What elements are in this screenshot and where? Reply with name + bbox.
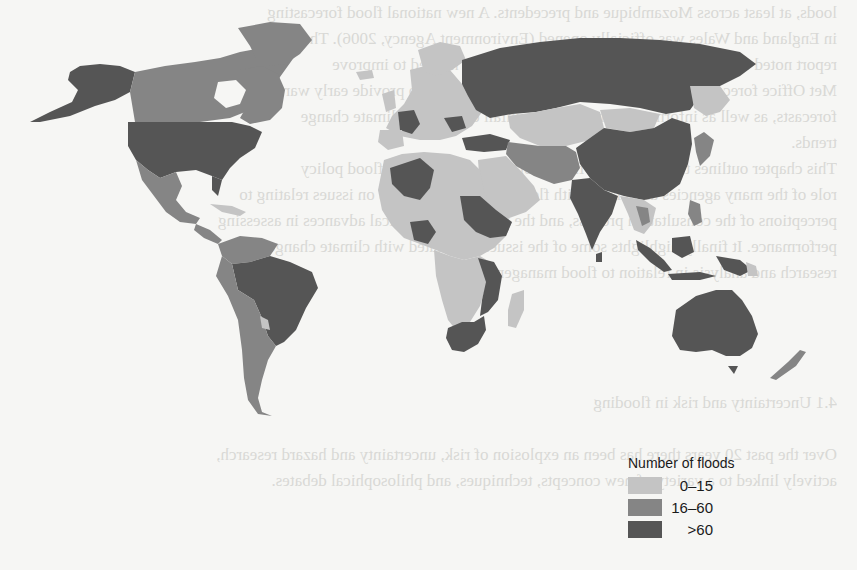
region-indonesia-java	[668, 272, 716, 280]
region-caribbean	[210, 204, 246, 216]
region-indonesia-borneo	[672, 236, 694, 258]
legend-item-low: 0–15	[628, 474, 798, 496]
region-madagascar	[508, 290, 524, 328]
region-png	[746, 262, 758, 276]
region-canada-east	[240, 66, 285, 124]
region-uk	[382, 90, 396, 112]
region-australia	[672, 290, 758, 356]
world-flood-map: Number of floods 0–15 16–60 >60	[0, 0, 857, 570]
region-southeast-asia	[620, 196, 656, 234]
region-philippines	[688, 200, 702, 226]
region-sri-lanka	[596, 252, 602, 262]
region-iberia	[378, 130, 404, 150]
legend-label-low: 0–15	[668, 477, 713, 494]
legend-swatch-high	[628, 521, 662, 538]
region-tasmania	[728, 366, 738, 374]
map-legend: Number of floods 0–15 16–60 >60	[628, 455, 798, 540]
region-central-america	[194, 224, 222, 244]
region-new-zealand	[770, 350, 806, 380]
region-far-east	[690, 86, 730, 116]
region-turkey-caucasus	[462, 134, 510, 152]
legend-title: Number of floods	[628, 455, 798, 471]
region-mongolia	[600, 108, 660, 132]
legend-swatch-mid	[628, 499, 662, 516]
region-korea-japan	[694, 132, 714, 166]
legend-item-high: >60	[628, 518, 798, 540]
region-alaska	[30, 64, 135, 122]
legend-item-mid: 16–60	[628, 496, 798, 518]
legend-swatch-low	[628, 477, 662, 494]
region-indonesia-sumatra	[636, 240, 672, 272]
region-iceland	[356, 70, 374, 80]
legend-label-high: >60	[668, 521, 713, 538]
legend-label-mid: 16–60	[668, 499, 713, 516]
region-scandinavia	[418, 42, 466, 76]
